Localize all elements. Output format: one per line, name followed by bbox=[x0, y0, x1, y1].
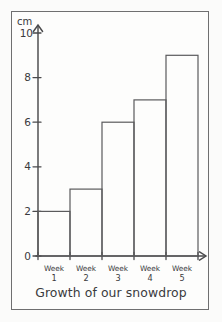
bars bbox=[38, 55, 198, 256]
y-tick-label-2: 2 bbox=[24, 205, 31, 217]
bar-week-4[interactable] bbox=[134, 100, 166, 256]
x-label-week-4: Week bbox=[140, 264, 161, 273]
y-tick-label-4: 4 bbox=[24, 160, 31, 172]
x-axis-category-labels: Week 1 Week 2 Week 3 Week 4 Week 5 bbox=[44, 264, 193, 283]
chart-caption: Growth of our snowdrop bbox=[35, 285, 187, 300]
y-tick-label-0: 0 bbox=[24, 250, 31, 262]
x-label-number-5: 5 bbox=[179, 273, 184, 283]
bar-chart: 0 2 4 6 8 10 cm Week 1 bbox=[0, 0, 222, 322]
y-tick-label-6: 6 bbox=[24, 116, 31, 128]
x-label-number-3: 3 bbox=[115, 273, 120, 283]
bar-week-1[interactable] bbox=[38, 211, 70, 256]
x-label-number-1: 1 bbox=[51, 273, 56, 283]
bar-week-5[interactable] bbox=[166, 55, 198, 256]
x-label-week-5: Week bbox=[172, 264, 193, 273]
y-axis-tick-labels: 0 2 4 6 8 10 bbox=[20, 27, 33, 262]
x-label-number-4: 4 bbox=[147, 273, 152, 283]
x-label-week-1: Week bbox=[44, 264, 65, 273]
y-axis-unit-label: cm bbox=[17, 16, 32, 27]
x-label-number-2: 2 bbox=[83, 273, 88, 283]
x-label-week-2: Week bbox=[76, 264, 97, 273]
y-tick-label-8: 8 bbox=[24, 71, 31, 83]
y-axis-ticks bbox=[33, 33, 41, 256]
y-tick-label-10: 10 bbox=[20, 27, 33, 39]
x-label-week-3: Week bbox=[108, 264, 129, 273]
chart-page: 0 2 4 6 8 10 cm Week 1 bbox=[0, 0, 222, 322]
bar-week-2[interactable] bbox=[70, 189, 102, 256]
bar-week-3[interactable] bbox=[102, 122, 134, 256]
